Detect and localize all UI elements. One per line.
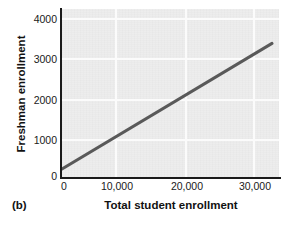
data-line-svg — [62, 9, 279, 177]
x-tick-label-30000: 30,000 — [239, 180, 271, 192]
plot-area — [62, 9, 279, 177]
y-axis-title: Freshman enrollment — [15, 19, 27, 169]
y-tick-label-4000: 4000 — [1, 13, 57, 25]
regression-line — [62, 43, 272, 168]
x-axis-title: Total student enrollment — [62, 199, 280, 211]
y-axis-tick-labels: 4000 3000 2000 1000 0 — [0, 0, 57, 226]
x-tick-label-20000: 20,000 — [171, 180, 203, 192]
x-tick-label-10000: 10,000 — [101, 180, 133, 192]
y-tick-label-0: 0 — [1, 170, 57, 182]
y-tick-label-3000: 3000 — [1, 53, 57, 65]
x-axis-spine — [60, 177, 281, 179]
figure-panel-b: 4000 3000 2000 1000 0 0 10,000 20,000 30… — [0, 0, 292, 226]
y-tick-label-1000: 1000 — [1, 134, 57, 146]
x-tick-label-0: 0 — [61, 180, 67, 192]
y-axis-spine — [60, 8, 62, 179]
y-tick-label-2000: 2000 — [1, 94, 57, 106]
panel-label: (b) — [12, 199, 27, 211]
